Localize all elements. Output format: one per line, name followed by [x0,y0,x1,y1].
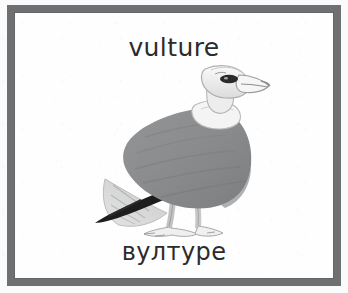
caption-english: vulture [15,35,333,60]
card-border-frame: vulture [7,5,341,286]
flashcard: vulture [0,0,348,293]
card-inner-area: vulture [15,13,333,278]
caption-cyrillic: вултуре [15,240,333,264]
beak [236,75,270,93]
vulture-illustration [45,61,295,251]
feet [144,226,223,236]
eye [220,75,238,83]
